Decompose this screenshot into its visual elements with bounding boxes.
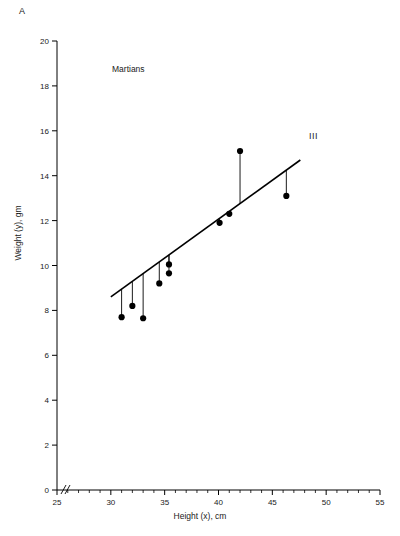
regression-line-group [111, 160, 300, 297]
x-tick-label: 55 [376, 498, 385, 507]
data-point [129, 303, 135, 309]
data-point [119, 314, 125, 320]
regression-line [111, 160, 300, 297]
x-tick-label: 50 [322, 498, 331, 507]
data-point [226, 211, 232, 217]
ticks-group [52, 41, 380, 495]
data-point [237, 148, 243, 154]
y-tick-label: 20 [40, 37, 49, 46]
x-tick-label: 35 [160, 498, 169, 507]
y-tick-label: 6 [45, 351, 50, 360]
y-tick-label: 12 [40, 217, 49, 226]
y-tick-label: 18 [40, 82, 49, 91]
x-tick-label: 25 [53, 498, 62, 507]
y-tick-label: 8 [45, 306, 50, 315]
tick-labels-group: 0246810121416182025303540455055 [40, 37, 385, 507]
x-tick-label: 30 [106, 498, 115, 507]
y-tick-label: 0 [45, 486, 50, 495]
x-tick-label: 45 [268, 498, 277, 507]
data-point [283, 193, 289, 199]
data-point [140, 315, 146, 321]
data-point [216, 220, 222, 226]
data-point [166, 270, 172, 276]
data-point [166, 261, 172, 267]
y-tick-label: 10 [40, 262, 49, 271]
y-tick-label: 14 [40, 172, 49, 181]
y-tick-label: 2 [45, 441, 50, 450]
figure-panel: A Martians III Height (x), cm Weight (y)… [0, 0, 400, 536]
residual-lines-group [122, 151, 287, 318]
y-tick-label: 16 [40, 127, 49, 136]
scatter-plot-canvas: 0246810121416182025303540455055 [0, 0, 400, 536]
data-point [156, 280, 162, 286]
x-tick-label: 40 [214, 498, 223, 507]
y-tick-label: 4 [45, 396, 50, 405]
data-points-group [119, 148, 290, 321]
axes-group [57, 41, 380, 494]
